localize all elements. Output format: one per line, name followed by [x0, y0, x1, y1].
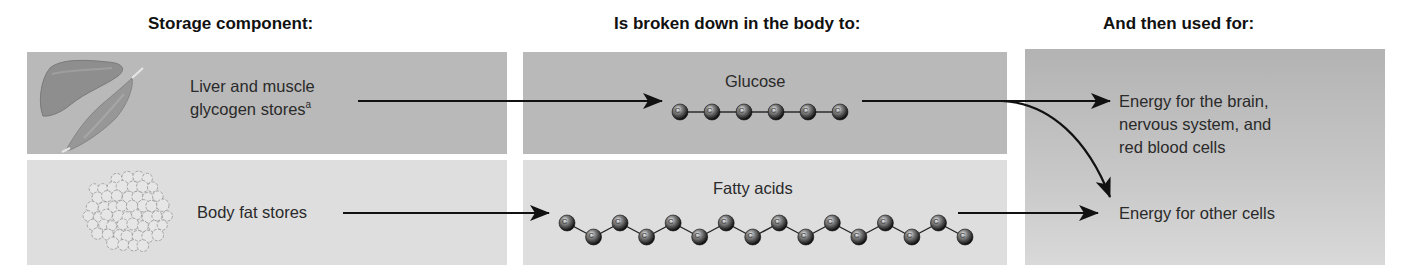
carbon-symbol: C: [675, 106, 681, 115]
glucose-carbon-atom: C: [672, 104, 688, 120]
carbon-symbol: C: [803, 106, 809, 115]
arrow-glucose-to-other-cells: [1002, 101, 1110, 197]
glucose-molecule: CCCCCC: [672, 104, 848, 120]
glucose-carbon-atom: C: [800, 104, 816, 120]
carbon-symbol: C: [933, 217, 939, 226]
carbon-symbol: C: [562, 217, 568, 226]
fatty-acid-carbon-atom: C: [692, 229, 708, 245]
carbon-symbol: C: [721, 217, 727, 226]
fatty-acid-carbon-atom: C: [957, 229, 973, 245]
fatty-acid-carbon-atom: C: [824, 215, 840, 231]
glucose-carbon-atom: C: [768, 104, 784, 120]
carbon-symbol: C: [774, 217, 780, 226]
carbon-symbol: C: [800, 231, 806, 240]
carbon-symbol: C: [694, 231, 700, 240]
carbon-symbol: C: [739, 106, 745, 115]
carbon-symbol: C: [835, 106, 841, 115]
fatty-acid-carbon-atom: C: [798, 229, 814, 245]
fatty-acid-carbon-atom: C: [851, 229, 867, 245]
carbon-symbol: C: [960, 231, 966, 240]
carbon-symbol: C: [588, 231, 594, 240]
fatty-acid-carbon-atom: C: [904, 229, 920, 245]
fatty-acid-carbon-atom: C: [639, 229, 655, 245]
fatty-acid-molecule: CCCCCCCCCCCCCCCC: [559, 215, 973, 245]
carbon-symbol: C: [907, 231, 913, 240]
glucose-carbon-atom: C: [736, 104, 752, 120]
fatty-acid-carbon-atom: C: [612, 215, 628, 231]
fatty-acid-carbon-atom: C: [771, 215, 787, 231]
flow-arrows: CCCCCC CCCCCCCCCCCCCCCC: [0, 0, 1417, 273]
fatty-acid-carbon-atom: C: [718, 215, 734, 231]
fatty-acid-carbon-atom: C: [877, 215, 893, 231]
fatty-acid-carbon-atom: C: [586, 229, 602, 245]
fatty-acid-carbon-atom: C: [559, 215, 575, 231]
fatty-acid-carbon-atom: C: [665, 215, 681, 231]
carbon-symbol: C: [668, 217, 674, 226]
carbon-symbol: C: [880, 217, 886, 226]
carbon-symbol: C: [707, 106, 713, 115]
carbon-symbol: C: [853, 231, 859, 240]
glucose-carbon-atom: C: [832, 104, 848, 120]
glucose-carbon-atom: C: [704, 104, 720, 120]
carbon-symbol: C: [615, 217, 621, 226]
carbon-symbol: C: [771, 106, 777, 115]
fatty-acid-carbon-atom: C: [745, 229, 761, 245]
carbon-symbol: C: [641, 231, 647, 240]
carbon-symbol: C: [827, 217, 833, 226]
carbon-symbol: C: [747, 231, 753, 240]
fatty-acid-carbon-atom: C: [930, 215, 946, 231]
